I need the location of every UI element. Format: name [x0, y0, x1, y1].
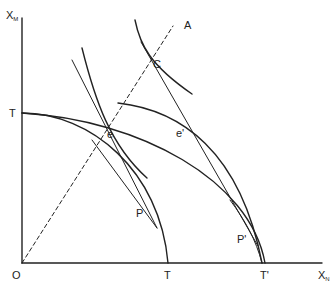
indifference-curve-e — [82, 48, 147, 178]
origin-label: O — [12, 270, 21, 281]
ppf-inner-TT — [22, 113, 168, 263]
point-C: C — [153, 59, 161, 70]
point-T-x: T — [164, 270, 171, 281]
indifference-curve-C — [135, 20, 192, 94]
point-e-prime: e' — [176, 128, 184, 139]
y-axis-label: XM — [6, 10, 18, 22]
ppf-diagram — [0, 0, 335, 287]
point-P-prime: P' — [237, 234, 246, 245]
ray-OA — [22, 26, 173, 263]
x-axis-label: XN — [318, 270, 330, 282]
point-A: A — [184, 20, 191, 31]
ppf-outer-TTprime — [22, 113, 265, 263]
point-P: P — [136, 208, 143, 219]
point-T-y: T — [9, 108, 16, 119]
point-e: e — [107, 129, 113, 140]
point-T-prime: T' — [260, 270, 269, 281]
price-line-e — [72, 60, 157, 228]
curve-Pprime — [230, 200, 262, 263]
